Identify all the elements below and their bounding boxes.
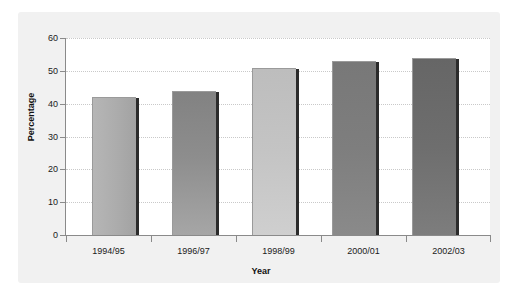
y-axis-line	[65, 38, 66, 236]
y-axis-title: Percentage	[26, 77, 36, 157]
y-tick-label: 10	[32, 198, 58, 207]
x-tick-label: 2000/01	[321, 246, 406, 256]
gridline	[66, 38, 490, 39]
bar-1994-95	[92, 97, 136, 235]
bar-2000-01	[332, 61, 376, 235]
x-tick-label: 1996/97	[151, 246, 236, 256]
x-tick-label: 1994/95	[66, 246, 151, 256]
y-tick-label: 60	[32, 34, 58, 43]
x-tick-label: 1998/99	[236, 246, 321, 256]
x-axis-line	[65, 235, 491, 236]
x-tick-mark	[490, 236, 491, 242]
y-tick-label: 50	[32, 67, 58, 76]
chart-screenshot: 60 50 40 30 20 10 0	[0, 0, 522, 297]
bar-shadow-edge	[136, 98, 139, 235]
x-tick-mark	[66, 236, 67, 242]
x-tick-label: 2002/03	[406, 246, 491, 256]
x-tick-mark	[151, 236, 152, 242]
x-tick-mark	[321, 236, 322, 242]
bar-shadow-edge	[376, 62, 379, 235]
bar-1998-99	[252, 68, 296, 235]
x-tick-mark	[236, 236, 237, 242]
plot-area	[66, 38, 490, 235]
bar-2002-03	[412, 58, 456, 235]
y-tick-label: 20	[32, 165, 58, 174]
x-tick-mark	[406, 236, 407, 242]
bar-1996-97	[172, 91, 216, 235]
bar-shadow-edge	[216, 92, 219, 235]
bar-shadow-edge	[296, 69, 299, 235]
y-tick-label: 0	[32, 231, 58, 240]
x-axis-title: Year	[0, 266, 522, 276]
bar-shadow-edge	[456, 59, 459, 235]
